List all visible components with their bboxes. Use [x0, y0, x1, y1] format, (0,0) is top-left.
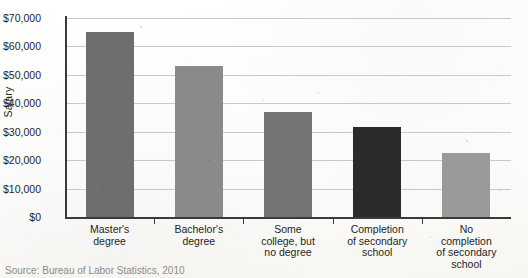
bar — [264, 112, 312, 217]
gridline — [67, 103, 511, 104]
x-axis-line — [65, 217, 511, 219]
y-axis-tick-label: $60,000 — [0, 40, 41, 52]
gridline — [67, 46, 511, 47]
x-axis-tick — [422, 217, 423, 224]
x-axis-tick — [154, 217, 155, 224]
plot-area: $70,000$60,000$50,000$40,000$30,000$20,0… — [65, 18, 511, 217]
source-note: Source: Bureau of Labor Statistics, 2010 — [5, 265, 185, 276]
y-axis-tick-label: $70,000 — [0, 12, 41, 24]
gridline — [67, 75, 511, 76]
x-axis-category-label: No completion of secondary school — [418, 224, 514, 270]
y-axis-tick-label: $10,000 — [0, 183, 41, 195]
gridline — [67, 18, 511, 19]
bar — [86, 32, 134, 217]
y-axis-tick-label: $40,000 — [0, 97, 41, 109]
x-axis-category-label: Bachelor's degree — [151, 224, 247, 247]
x-axis-category-label: Master's degree — [62, 224, 158, 247]
bar — [353, 127, 401, 217]
x-axis-category-label: Completion of secondary school — [329, 224, 425, 259]
bar — [442, 153, 490, 217]
y-axis-tick-label: $20,000 — [0, 154, 41, 166]
x-axis-tick — [333, 217, 334, 224]
bar — [175, 66, 223, 217]
salary-by-education-bar-chart: Salary $70,000$60,000$50,000$40,000$30,0… — [0, 0, 528, 278]
y-axis-tick-label: $50,000 — [0, 69, 41, 81]
y-axis-tick-label: $0 — [0, 211, 41, 223]
y-axis-tick-label: $30,000 — [0, 126, 41, 138]
x-axis-tick — [243, 217, 244, 224]
x-axis-category-label: Some college, but no degree — [240, 224, 336, 259]
